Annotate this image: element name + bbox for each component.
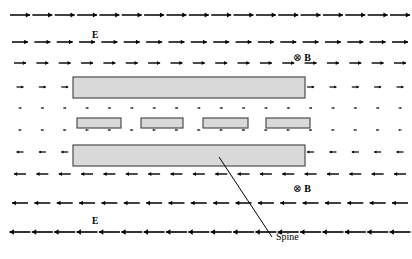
field-arrow-head	[315, 40, 319, 45]
field-arrow-head	[124, 201, 128, 206]
field-arrow-head	[148, 172, 151, 176]
field-arrow-head	[303, 201, 307, 206]
field-arrow-head	[287, 129, 288, 131]
field-arrow-head	[41, 129, 42, 131]
field-arrow-head	[392, 201, 396, 206]
field-arrow-head	[121, 229, 125, 234]
field-arrow-head	[179, 61, 182, 65]
field-arrow-head	[44, 86, 46, 89]
field-arrow-head	[39, 151, 41, 154]
field-arrow-row	[10, 229, 411, 234]
field-arrow-head	[32, 229, 36, 234]
field-arrow-head	[182, 12, 186, 17]
field-arrow-head	[213, 201, 217, 206]
field-arrow-head	[244, 107, 245, 109]
field-arrow-head	[69, 40, 73, 45]
field-arrow-head	[294, 12, 298, 17]
field-arrow-head	[126, 172, 129, 176]
field-arrow-head	[90, 61, 93, 65]
field-arrow-head	[337, 40, 341, 45]
field-arrow-head	[175, 129, 176, 131]
field-arrow-head	[380, 61, 383, 65]
e-field-label-top: E	[92, 30, 98, 40]
field-arrow-head	[68, 61, 71, 65]
field-arrow-head	[282, 172, 285, 176]
field-arrow-head	[358, 61, 361, 65]
field-arrow-head	[10, 229, 14, 234]
b-into-page-icon-bottom: ⊗	[293, 183, 302, 194]
field-arrow-head	[331, 129, 332, 131]
b-into-page-icon-top: ⊗	[293, 52, 302, 63]
field-arrow-head	[305, 172, 308, 176]
field-arrow-head	[77, 229, 81, 234]
element-bar-4[interactable]	[266, 118, 310, 128]
field-arrow-head	[146, 201, 150, 206]
field-arrow-head	[99, 229, 103, 234]
field-arrow-head	[36, 172, 39, 176]
field-arrow-head	[382, 40, 386, 45]
field-arrow-head	[160, 12, 164, 17]
lower-spine-bar[interactable]	[73, 145, 305, 166]
field-arrow-head	[266, 107, 267, 109]
field-arrow-head	[347, 201, 351, 206]
field-arrow-head	[374, 151, 376, 154]
field-arrow-head	[168, 201, 172, 206]
field-arrow-head	[63, 129, 64, 131]
field-arrow-head	[248, 40, 252, 45]
field-arrow-head	[227, 12, 231, 17]
field-arrow-head	[108, 129, 109, 131]
element-bar-3[interactable]	[203, 118, 248, 128]
field-arrow-head	[354, 129, 355, 131]
field-arrow-head	[71, 12, 75, 17]
field-arrow-head	[401, 86, 403, 89]
field-arrow-head	[197, 129, 198, 131]
field-arrow-head	[170, 172, 173, 176]
field-arrow-head	[249, 12, 253, 17]
b-field-label-bottom-text: B	[304, 183, 311, 194]
field-arrow-head	[336, 61, 339, 65]
field-arrow-head	[246, 61, 249, 65]
field-arrow-head	[153, 129, 154, 131]
field-arrow-head	[312, 86, 314, 89]
field-arrow-row	[19, 129, 402, 131]
field-arrow-head	[345, 229, 349, 234]
field-arrow-head	[269, 61, 272, 65]
field-arrow-head	[203, 40, 207, 45]
field-arrow-head	[258, 201, 262, 206]
field-arrow-head	[181, 40, 185, 45]
field-arrow-head	[372, 172, 375, 176]
field-arrow-head	[236, 201, 240, 206]
field-arrow-head	[202, 61, 205, 65]
element-bar-1[interactable]	[77, 118, 121, 128]
field-arrow-head	[224, 61, 227, 65]
field-arrow-head	[311, 107, 312, 109]
field-arrow-row	[10, 12, 410, 17]
field-arrow-head	[132, 107, 133, 109]
field-arrow-head	[238, 172, 241, 176]
element-bar-2[interactable]	[141, 118, 183, 128]
field-arrow-head	[23, 61, 26, 65]
field-arrow-head	[177, 107, 178, 109]
field-arrow-head	[390, 229, 394, 234]
field-arrow-head	[399, 129, 400, 131]
field-arrow-head	[135, 61, 138, 65]
field-arrow-head	[17, 151, 19, 154]
field-arrow-head	[260, 172, 263, 176]
field-arrow-head	[158, 40, 162, 45]
field-arrow-head	[333, 107, 334, 109]
field-arrow-head	[130, 129, 131, 131]
field-arrow-head	[383, 12, 387, 17]
field-arrow-head	[406, 12, 410, 17]
field-arrow-head	[309, 129, 310, 131]
field-arrow-head	[316, 12, 320, 17]
field-arrow-head	[397, 151, 399, 154]
b-field-label-bottom: ⊗ B	[293, 182, 311, 194]
field-arrow-head	[65, 107, 66, 109]
field-arrow-head	[370, 201, 374, 206]
field-arrow-head	[157, 61, 160, 65]
upper-spine-bar[interactable]	[73, 77, 305, 98]
field-arrow-row	[14, 61, 406, 65]
field-arrow-head	[34, 201, 38, 206]
field-arrow-row	[12, 201, 408, 206]
field-arrow-head	[404, 40, 408, 45]
